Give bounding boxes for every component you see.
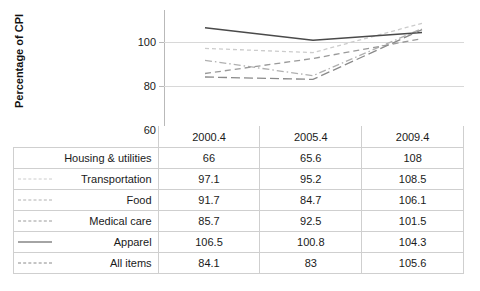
series-label: Transportation	[81, 173, 152, 185]
cell-value-2000.4: 91.7	[158, 190, 260, 211]
table-header-blank	[14, 126, 159, 148]
cell-value-2000.4: 97.1	[158, 169, 260, 190]
cell-value-2005.4: 84.7	[260, 190, 362, 211]
series-label: Housing & utilities	[64, 152, 151, 164]
table-row: Housing & utilities6665.6108	[14, 148, 464, 169]
series-label: Food	[127, 194, 152, 206]
cell-value-2009.4: 105.6	[362, 253, 464, 274]
series-label: All items	[110, 257, 152, 269]
series-label: Apparel	[114, 236, 152, 248]
series-line-transportation	[205, 23, 422, 52]
cell-value-2005.4: 92.5	[260, 211, 362, 232]
table-header-2000-4: 2000.4	[158, 126, 260, 148]
table-body: Housing & utilities6665.6108Transportati…	[14, 148, 464, 274]
cell-value-2009.4: 106.1	[362, 190, 464, 211]
cell-value-2000.4: 106.5	[158, 232, 260, 253]
cell-value-2000.4: 85.7	[158, 211, 260, 232]
cell-value-2009.4: 108.5	[362, 169, 464, 190]
cell-value-2005.4: 100.8	[260, 232, 362, 253]
series-line-medical-care	[205, 39, 422, 74]
table-row: Medical care85.792.5101.5	[14, 211, 464, 232]
legend-row-4: Medical care	[14, 211, 159, 232]
legend-line-swatch-icon	[18, 179, 52, 180]
cell-value-2000.4: 66	[158, 148, 260, 169]
series-lines	[0, 0, 480, 140]
table-row: Food91.784.7106.1	[14, 190, 464, 211]
cell-value-2009.4: 108	[362, 148, 464, 169]
legend-row-1: Housing & utilities	[14, 148, 159, 169]
legend-line-swatch-icon	[18, 242, 52, 243]
legend-row-6: All items	[14, 253, 159, 274]
legend-line-swatch-icon	[18, 263, 52, 264]
table-row: Apparel106.5100.8104.3	[14, 232, 464, 253]
data-table: 2000.4 2005.4 2009.4 Housing & utilities…	[13, 126, 464, 274]
legend-line-swatch-icon	[18, 200, 52, 201]
table-header-2009-4: 2009.4	[362, 126, 464, 148]
series-line-apparel	[205, 28, 422, 41]
cell-value-2005.4: 83	[260, 253, 362, 274]
legend-row-5: Apparel	[14, 232, 159, 253]
legend-line-swatch-icon	[18, 221, 52, 222]
legend-row-2: Transportation	[14, 169, 159, 190]
cell-value-2009.4: 104.3	[362, 232, 464, 253]
series-line-all-items	[205, 30, 422, 80]
chart-figure: Percentage of CPI 100 80 60 2000.4 2005.…	[0, 0, 480, 291]
plot-area: 100 80 60	[0, 0, 480, 140]
table-header-2005-4: 2005.4	[260, 126, 362, 148]
cell-value-2005.4: 65.6	[260, 148, 362, 169]
series-label: Medical care	[89, 215, 151, 227]
cell-value-2005.4: 95.2	[260, 169, 362, 190]
legend-row-3: Food	[14, 190, 159, 211]
table-row: All items84.183105.6	[14, 253, 464, 274]
table-row: Transportation97.195.2108.5	[14, 169, 464, 190]
cell-value-2000.4: 84.1	[158, 253, 260, 274]
table-header-row: 2000.4 2005.4 2009.4	[14, 126, 464, 148]
cell-value-2009.4: 101.5	[362, 211, 464, 232]
